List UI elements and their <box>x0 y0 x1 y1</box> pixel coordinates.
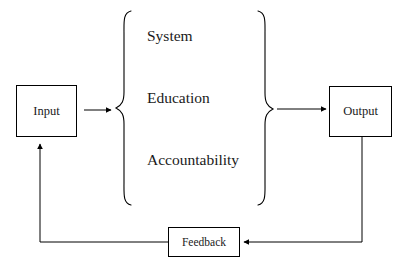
connector-output-to-feedback <box>244 137 362 242</box>
node-output-label: Output <box>343 104 378 119</box>
process-item-education: Education <box>147 90 210 106</box>
process-item-accountability: Accountability <box>147 152 239 168</box>
node-input[interactable]: Input <box>16 85 77 137</box>
node-feedback[interactable]: Feedback <box>168 227 240 257</box>
node-feedback-label: Feedback <box>182 236 226 248</box>
right-brace-icon <box>258 11 273 205</box>
node-input-label: Input <box>33 104 59 119</box>
left-brace-icon <box>116 11 131 205</box>
node-output[interactable]: Output <box>329 86 392 137</box>
diagram-canvas: Input Output Feedback System Education A… <box>0 0 410 267</box>
process-item-system: System <box>147 28 193 44</box>
